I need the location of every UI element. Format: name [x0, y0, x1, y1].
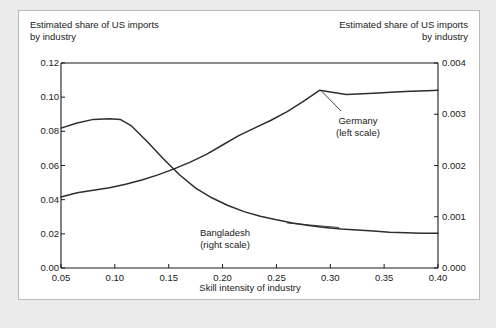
- y-tick-left-3: 0.06: [41, 160, 60, 171]
- y-tick-left-1: 0.02: [41, 228, 60, 239]
- x-axis-title: Skill intensity of industry: [19, 282, 481, 294]
- leader-bangladesh: [287, 223, 339, 228]
- y-tick-left-6: 0.12: [41, 57, 60, 68]
- leader-germany: [322, 91, 341, 111]
- chart-canvas: [19, 11, 481, 301]
- y-tick-right-2: 0.002: [442, 160, 466, 171]
- y-tick-left-4: 0.08: [41, 125, 60, 136]
- y-tick-right-4: 0.004: [442, 57, 466, 68]
- figure-panel: Estimated share of US imports by industr…: [18, 10, 480, 300]
- series-layer: [61, 90, 438, 233]
- annotation-bangladesh: Bangladesh (right scale): [179, 227, 271, 250]
- y-tick-right-3: 0.003: [442, 108, 466, 119]
- series-line-germany: [61, 90, 438, 197]
- y-tick-right-1: 0.001: [442, 211, 466, 222]
- y-tick-left-5: 0.10: [41, 91, 60, 102]
- leader-lines: [287, 91, 341, 227]
- y-tick-left-2: 0.04: [41, 194, 60, 205]
- annotation-germany: Germany (left scale): [315, 115, 401, 138]
